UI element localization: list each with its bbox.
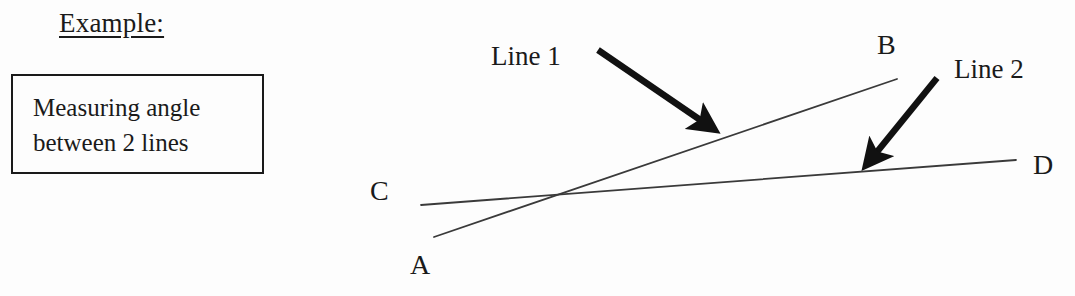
line-2-pointer-arrow <box>868 78 937 163</box>
point-label-c: C <box>370 176 389 206</box>
line-2-segment <box>421 160 1016 205</box>
line-1-pointer-arrow <box>598 50 712 128</box>
line-1-label: Line 1 <box>491 41 561 71</box>
point-label-d: D <box>1033 150 1053 180</box>
point-label-a: A <box>410 250 430 280</box>
worksheet-page: Example: Measuring angle between 2 lines… <box>0 0 1075 296</box>
point-label-b: B <box>877 30 896 60</box>
line-1-segment <box>434 79 897 237</box>
line-2-label: Line 2 <box>954 54 1024 84</box>
